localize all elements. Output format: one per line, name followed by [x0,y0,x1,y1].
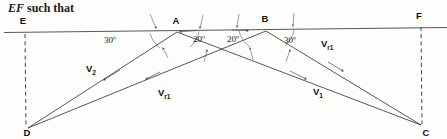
velocity-triangle-diagram: E F A B D C 30º 20º 20º 30º V2 Vr1 V1 Vr… [0,0,447,139]
vector-label-v2: V2 [86,63,96,76]
dashed-line-ed [25,34,26,127]
point-label-a: A [173,15,180,26]
tick-angle-a-right [200,15,203,28]
vector-label-v2-sub: 2 [92,69,96,76]
segment-ac [177,32,421,125]
arc-angle-b-left [239,31,250,47]
angle-label-b-left: 20º [227,34,239,44]
tick-angle-b-right-inner [286,50,290,62]
arrow-v2-direction [104,70,120,80]
point-label-f: F [416,10,422,21]
vector-label-v1-sub: 1 [319,92,323,99]
figure-page: EF such that [0,0,447,139]
vector-label-v1: V1 [313,86,323,99]
segment-bc [266,31,421,125]
line-ef [4,28,447,33]
vector-label-vr1-upper-sub: r1 [327,44,334,51]
vector-label-vr1-lower: Vr1 [158,87,171,100]
angle-label-b-right: 30º [284,35,296,45]
dashed-line-fc [421,27,422,124]
tick-angle-a-left [150,14,156,28]
segment-da [28,32,177,128]
angle-label-a-right: 20º [193,34,205,44]
point-label-c: C [423,127,430,138]
tick-angle-b-right [293,13,294,26]
vector-label-vr1-lower-sub: r1 [164,93,171,100]
tick-angle-a-left-inner [163,48,168,58]
angle-label-a-left: 30º [104,35,116,45]
tick-angle-b-left-inner [250,48,253,60]
tick-angle-b-left [237,14,239,27]
segment-db [28,31,266,128]
point-label-e: E [20,15,26,26]
vector-label-vr1-upper: Vr1 [321,38,334,51]
point-label-b: B [262,13,269,24]
point-label-d: D [24,127,31,138]
